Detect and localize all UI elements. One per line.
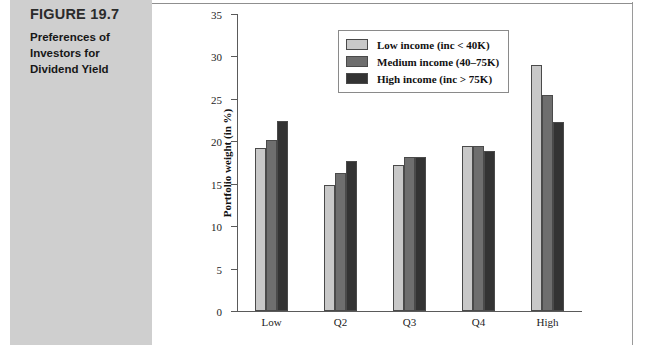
bar [277,121,288,311]
bar [255,148,266,311]
bar [324,185,335,311]
figure-sidebar: FIGURE 19.7 Preferences of Investors for… [10,0,152,345]
bar-group-bars [237,14,306,311]
bar-group: High [513,14,582,311]
bar [542,95,553,311]
x-tick-label: Q3 [375,316,444,328]
y-tick-label: 5 [217,264,223,276]
bar [266,140,277,311]
chart-legend: Low income (inc < 40K) Medium income (40… [338,30,509,93]
legend-swatch-medium-income [346,56,368,67]
legend-label-medium-income: Medium income (40–75K) [377,56,499,68]
x-axis [237,311,582,312]
legend-swatch-low-income [346,39,368,50]
bar [415,157,426,311]
y-axis-title: Portfolio weight (in %) [221,108,233,216]
bar-group-bars [513,14,582,311]
figure-page: FIGURE 19.7 Preferences of Investors for… [0,0,662,345]
figure-number: FIGURE 19.7 [30,6,119,22]
x-tick-label: High [513,316,582,328]
y-tick-label: 0 [217,306,223,318]
y-tick: 0 [231,311,237,312]
legend-swatch-high-income [346,73,368,84]
legend-item: Low income (inc < 40K) [346,36,499,53]
bar [473,146,484,311]
legend-item: High income (inc > 75K) [346,70,499,87]
bar [462,146,473,311]
bar [346,161,357,311]
legend-label-low-income: Low income (inc < 40K) [377,39,490,51]
x-tick-label: Q2 [306,316,375,328]
y-tick-label: 20 [211,136,222,148]
bar [484,151,495,311]
bar [531,65,542,311]
y-tick-label: 30 [211,51,222,63]
legend-label-high-income: High income (inc > 75K) [377,73,492,85]
bar-group: Low [237,14,306,311]
bar [335,173,346,311]
x-tick-label: Low [237,316,306,328]
y-tick-label: 15 [211,179,222,191]
y-tick-label: 10 [211,221,222,233]
y-tick-label: 25 [211,94,222,106]
figure-caption: Preferences of Investors for Dividend Yi… [30,29,142,77]
bar [393,165,404,311]
bar [404,157,415,311]
bar [553,122,564,311]
y-tick-label: 35 [211,9,222,21]
legend-item: Medium income (40–75K) [346,53,499,70]
plot-area: Portfolio weight (in %) 05101520253035 L… [237,14,582,311]
bar-chart: Portfolio weight (in %) 05101520253035 L… [152,0,662,345]
x-tick-label: Q4 [444,316,513,328]
